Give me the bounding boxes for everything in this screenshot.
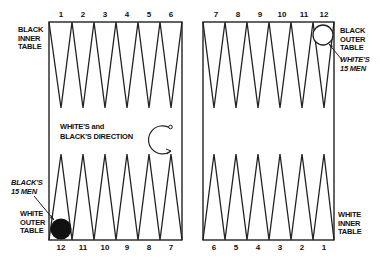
point-number-bottom: 11: [76, 243, 90, 252]
black-inner-table-label: BLACK INNER TABLE: [18, 26, 43, 52]
point-number-top: 1: [54, 10, 68, 19]
point-number-bottom: 6: [207, 243, 221, 252]
black-checker-stack: [51, 219, 72, 240]
white-inner-table-label: WHITE INNER TABLE: [338, 211, 361, 237]
point-number-top: 3: [98, 10, 112, 19]
point-number-bottom: 1: [317, 243, 331, 252]
direction-label-line2: BLACK'S DIRECTION: [60, 133, 133, 142]
point-number-top: 12: [317, 10, 331, 19]
blacks-15-men-label: BLACK'S 15 MEN: [11, 179, 43, 196]
bottom-right-points: [203, 154, 334, 240]
direction-arc-start-icon: [169, 125, 173, 129]
point-number-top: 6: [164, 10, 178, 19]
point-number-top: 9: [253, 10, 267, 19]
point-number-top: 4: [120, 10, 134, 19]
point-number-top: 7: [209, 10, 223, 19]
point-number-bottom: 10: [98, 243, 112, 252]
point-number-top: 2: [76, 10, 90, 19]
point-number-top: 5: [142, 10, 156, 19]
direction-label-line1: WHITE'S and: [60, 123, 104, 132]
point-number-bottom: 7: [164, 243, 178, 252]
point-number-bottom: 2: [295, 243, 309, 252]
point-number-bottom: 12: [54, 243, 68, 252]
point-number-bottom: 3: [273, 243, 287, 252]
white-checker-stack: [313, 25, 333, 45]
right-board-half: [203, 22, 334, 240]
point-number-bottom: 8: [142, 243, 156, 252]
white-outer-table-label: WHITE OUTER TABLE: [20, 210, 45, 236]
point-number-top: 10: [275, 10, 289, 19]
point-number-top: 11: [297, 10, 311, 19]
point-number-bottom: 5: [229, 243, 243, 252]
top-left-points: [49, 22, 182, 108]
backgammon-board: [0, 0, 380, 259]
whites-15-men-label: WHITE'S 15 MEN: [340, 56, 370, 73]
point-number-top: 8: [231, 10, 245, 19]
black-outer-table-label: BLACK OUTER TABLE: [340, 27, 365, 53]
point-number-bottom: 9: [120, 243, 134, 252]
point-number-bottom: 4: [251, 243, 265, 252]
